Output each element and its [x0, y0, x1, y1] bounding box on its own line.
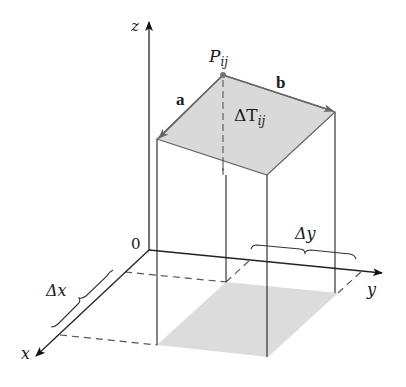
z-axis-label: z — [130, 17, 139, 35]
vector-a-label: a — [176, 90, 185, 109]
surface-area-diagram: z x y 0 Pij a b ΔTij Δx Δy — [0, 0, 406, 387]
origin-label: 0 — [131, 235, 141, 253]
x-axis-label: x — [21, 344, 30, 363]
point-p — [220, 72, 226, 78]
y-axis-label: y — [366, 280, 377, 299]
point-label: Pij — [208, 46, 228, 69]
vector-b-label: b — [276, 73, 285, 92]
dx-label: Δx — [45, 281, 67, 300]
dy-label: Δy — [294, 224, 317, 243]
x-axis — [36, 250, 149, 356]
base-region — [157, 282, 338, 357]
